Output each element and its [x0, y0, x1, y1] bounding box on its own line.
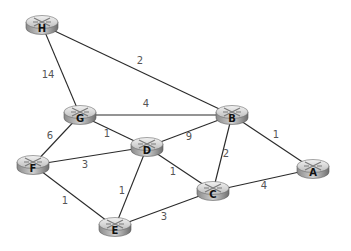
router-node-e: E: [99, 218, 131, 237]
edge-weight-D-C: 1: [170, 166, 176, 177]
edge-weight-B-C: 2: [223, 148, 229, 159]
edge-weight-G-D: 1: [104, 128, 110, 139]
edge-weight-B-A: 1: [273, 129, 279, 140]
edge-weight-C-A: 4: [261, 180, 267, 191]
router-node-d: D: [131, 138, 163, 157]
router-label: G: [76, 113, 84, 124]
router-label: D: [143, 145, 151, 156]
router-node-f: F: [17, 156, 49, 175]
router-label: C: [209, 189, 216, 200]
edge-weight-D-B: 9: [186, 131, 192, 142]
network-diagram: 214416931214113 HGBDFCAE: [0, 0, 351, 251]
router-label: E: [112, 225, 119, 236]
edge-weight-H-B: 2: [137, 55, 143, 66]
router-node-c: C: [197, 182, 229, 201]
edge-weight-F-D: 3: [82, 159, 88, 170]
edge-weight-H-G: 14: [42, 69, 55, 80]
router-label: B: [228, 113, 236, 124]
router-node-a: A: [297, 160, 329, 179]
edge-F-E: [33, 165, 115, 227]
weights-layer: 214416931214113: [42, 55, 280, 222]
edge-weight-E-C: 3: [161, 211, 167, 222]
router-label: F: [30, 163, 37, 174]
router-node-b: B: [216, 106, 248, 125]
router-node-g: G: [64, 106, 96, 125]
edge-B-A: [232, 115, 313, 169]
edge-F-D: [33, 147, 147, 165]
edge-weight-F-E: 1: [62, 195, 68, 206]
edge-weight-G-B: 4: [143, 98, 149, 109]
router-node-h: H: [26, 16, 58, 35]
edge-weight-D-E: 1: [119, 185, 125, 196]
edges-layer: [33, 25, 313, 227]
edge-weight-G-F: 6: [47, 130, 53, 141]
router-label: A: [309, 167, 317, 178]
router-label: H: [38, 23, 46, 34]
edge-H-B: [42, 25, 232, 115]
